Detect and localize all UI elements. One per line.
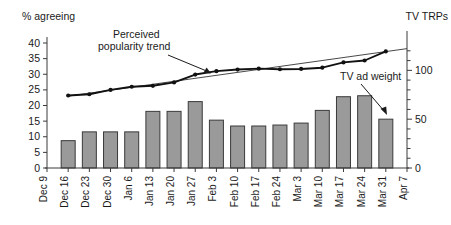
annotation-tv-ad-weight-label: TV ad weight — [340, 70, 401, 82]
x-axis-tick-label: Jan 13 — [144, 176, 155, 206]
bar — [294, 123, 308, 168]
x-axis-tick-label: Mar 17 — [334, 176, 345, 208]
bar — [379, 119, 393, 168]
x-axis-tick-label: Mar 10 — [313, 176, 324, 208]
right-axis-title: TV TRPs — [406, 10, 448, 22]
data-point-marker — [299, 67, 303, 71]
annotation-leader-line — [168, 55, 209, 72]
bar — [125, 132, 139, 168]
right-axis-tick-label: 100 — [415, 64, 433, 76]
bar — [61, 141, 75, 168]
bar — [358, 96, 372, 168]
left-axis-tick-label: 30 — [28, 68, 40, 80]
x-axis-tick-label: Feb 10 — [229, 176, 240, 208]
x-axis-tick-label: Feb 17 — [250, 176, 261, 208]
x-axis: Dec 9Dec 16Dec 23Dec 30Jan 6Jan 13Jan 20… — [38, 168, 409, 208]
x-axis-tick-label: Mar 31 — [377, 176, 388, 208]
bar-series-tv-ad-weight — [61, 96, 393, 168]
right-y-axis: 050100 — [407, 31, 433, 174]
bar — [82, 132, 96, 168]
left-axis-tick-label: 0 — [34, 162, 40, 174]
left-axis-tick-label: 5 — [34, 146, 40, 158]
bar — [252, 126, 266, 168]
left-y-axis: 0510152025303540 — [28, 37, 47, 174]
x-axis-tick-label: Mar 3 — [292, 176, 303, 202]
left-axis-tick-label: 15 — [28, 115, 40, 127]
data-point-marker — [87, 92, 91, 96]
bar — [273, 125, 287, 168]
data-point-marker — [257, 67, 261, 71]
bar — [167, 111, 181, 168]
left-axis-tick-label: 40 — [28, 37, 40, 49]
bar — [104, 132, 118, 168]
data-point-marker — [130, 85, 134, 89]
data-point-marker — [193, 72, 197, 76]
data-point-marker — [151, 84, 155, 88]
left-axis-tick-label: 35 — [28, 52, 40, 64]
data-point-marker — [363, 58, 367, 62]
data-point-marker — [172, 80, 176, 84]
bar — [146, 111, 160, 168]
annotation-perceived-popularity-trend: Perceived popularity trend — [98, 28, 211, 74]
data-point-marker — [320, 66, 324, 70]
bar — [336, 97, 350, 168]
x-axis-tick-label: Dec 30 — [102, 176, 113, 208]
bar — [315, 110, 329, 168]
x-axis-tick-label: Dec 23 — [80, 176, 91, 208]
x-axis-tick-label: Mar 24 — [356, 176, 367, 208]
bar — [188, 102, 202, 168]
chart-container: % agreeing TV TRPs 0510152025303540 0501… — [0, 0, 451, 225]
left-axis-tick-label: 25 — [28, 83, 40, 95]
x-axis-tick-label: Dec 9 — [38, 176, 49, 203]
left-axis-tick-label: 20 — [28, 99, 40, 111]
data-point-marker — [384, 49, 388, 53]
chart-svg: % agreeing TV TRPs 0510152025303540 0501… — [0, 0, 451, 225]
data-point-marker — [214, 69, 218, 73]
data-point-marker — [341, 60, 345, 64]
annotation-line-1: Perceived — [113, 28, 160, 40]
x-axis-tick-label: Jan 27 — [186, 176, 197, 206]
x-axis-tick-label: Feb 24 — [271, 176, 282, 208]
x-axis-tick-label: Dec 16 — [59, 176, 70, 208]
data-point-marker — [278, 67, 282, 71]
data-point-marker — [66, 93, 70, 97]
right-axis-tick-label: 0 — [415, 162, 421, 174]
left-axis-title: % agreeing — [22, 10, 75, 22]
left-axis-tick-label: 10 — [28, 130, 40, 142]
x-axis-tick-label: Feb 3 — [207, 176, 218, 202]
x-axis-tick-label: Apr 7 — [398, 176, 409, 200]
data-point-marker — [235, 67, 239, 71]
x-axis-tick-label: Jan 6 — [123, 176, 134, 201]
data-point-marker — [108, 88, 112, 92]
bar — [231, 126, 245, 168]
bar — [209, 120, 223, 168]
annotation-line-2: popularity trend — [98, 40, 171, 52]
right-axis-tick-label: 50 — [415, 113, 427, 125]
x-axis-tick-label: Jan 20 — [165, 176, 176, 206]
